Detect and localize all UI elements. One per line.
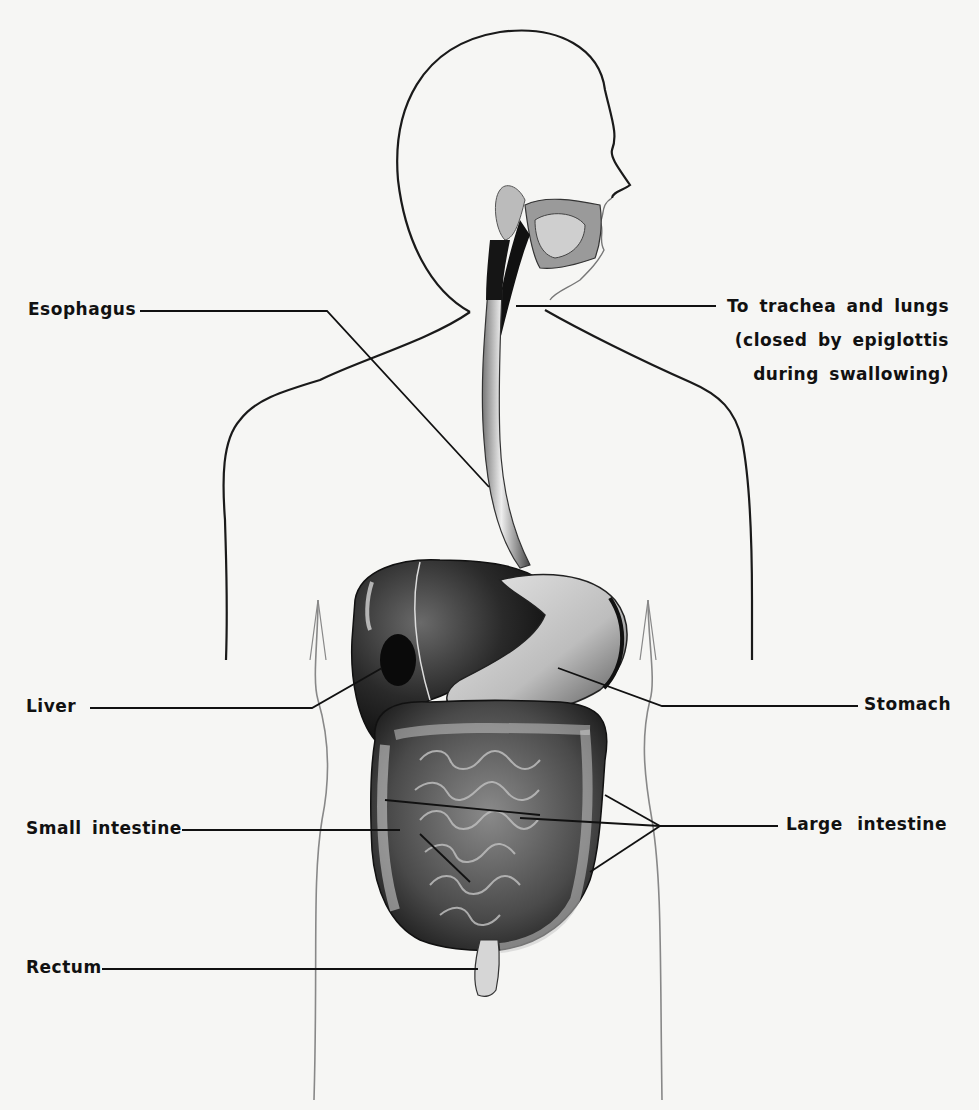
label-small-intestine: Small intestine — [26, 818, 182, 838]
label-large-intestine: Large intestine — [786, 814, 947, 834]
rectum — [475, 940, 500, 996]
label-trachea-line2: (closed by epiglottis — [727, 323, 949, 357]
label-rectum: Rectum — [26, 957, 102, 977]
digestive-system-diagram: Esophagus To trachea and lungs (closed b… — [0, 0, 979, 1110]
label-trachea: To trachea and lungs (closed by epiglott… — [727, 289, 949, 391]
label-stomach: Stomach — [864, 694, 951, 714]
label-trachea-line1: To trachea and lungs — [727, 289, 949, 323]
label-liver: Liver — [26, 696, 76, 716]
esophagus — [482, 290, 530, 568]
label-esophagus: Esophagus — [28, 299, 136, 319]
mouth-pharynx — [495, 186, 601, 340]
label-trachea-line3: during swallowing) — [727, 357, 949, 391]
anatomy-illustration — [0, 0, 979, 1110]
